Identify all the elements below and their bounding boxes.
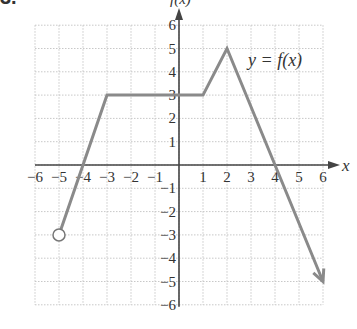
function-label: y = f(x) [246, 50, 302, 71]
y-axis-label: f(x) [170, 0, 191, 8]
svg-text:1: 1 [169, 134, 177, 150]
svg-text:−4: −4 [160, 250, 176, 266]
svg-text:6: 6 [169, 17, 177, 33]
svg-text:−1: −1 [160, 180, 176, 196]
svg-text:4: 4 [169, 64, 177, 80]
x-axis-label: x [341, 156, 350, 175]
svg-text:−2: −2 [160, 204, 176, 220]
function-graph: −6−5−4−3−2−1123456654321−1−2−3−4−5−6 y =… [0, 0, 357, 329]
svg-text:−2: −2 [123, 169, 139, 185]
svg-text:6: 6 [319, 169, 327, 185]
svg-text:−5: −5 [51, 169, 67, 185]
svg-text:−6: −6 [27, 169, 43, 185]
svg-text:5: 5 [169, 41, 177, 57]
svg-text:−6: −6 [160, 297, 176, 313]
svg-text:2: 2 [223, 169, 231, 185]
svg-text:3: 3 [247, 169, 255, 185]
open-endpoint [53, 229, 65, 241]
svg-text:2: 2 [169, 110, 177, 126]
svg-text:−3: −3 [160, 227, 176, 243]
svg-text:5: 5 [295, 169, 303, 185]
svg-text:1: 1 [199, 169, 207, 185]
svg-text:−5: −5 [160, 274, 176, 290]
svg-text:−3: −3 [99, 169, 115, 185]
